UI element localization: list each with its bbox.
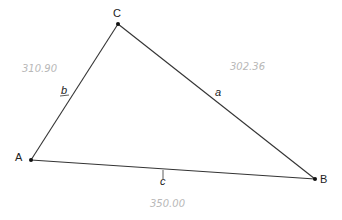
vertex-label-b: B <box>320 173 327 185</box>
vertex-point-a <box>29 158 33 162</box>
vertex-point-b <box>313 177 317 181</box>
vertex-label-a: A <box>15 151 23 163</box>
side-b-line <box>31 24 118 160</box>
length-note-b: 310.90 <box>22 63 57 74</box>
length-note-a: 302.36 <box>230 61 265 72</box>
vertex-label-c: C <box>113 7 121 19</box>
vertex-point-c <box>116 22 120 26</box>
triangle-diagram: C A B b a c 310.90 302.36 350.00 <box>0 0 342 220</box>
side-c-line <box>31 160 315 179</box>
length-note-c: 350.00 <box>150 198 185 209</box>
side-label-a: a <box>215 86 221 98</box>
side-label-b: b <box>61 84 67 96</box>
side-a-line <box>118 24 315 179</box>
